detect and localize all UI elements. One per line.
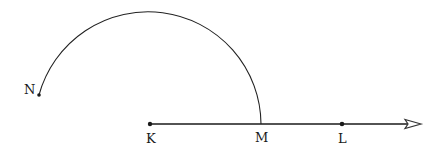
diagram-canvas: N K M L	[0, 0, 444, 154]
point-k	[148, 122, 152, 126]
arc-nm	[39, 12, 261, 124]
label-k: K	[146, 131, 156, 146]
label-n: N	[24, 82, 35, 97]
point-n	[37, 93, 41, 97]
point-l	[340, 122, 345, 127]
label-m: M	[255, 130, 268, 145]
arrowhead-icon	[405, 120, 421, 129]
label-l: L	[338, 131, 347, 146]
